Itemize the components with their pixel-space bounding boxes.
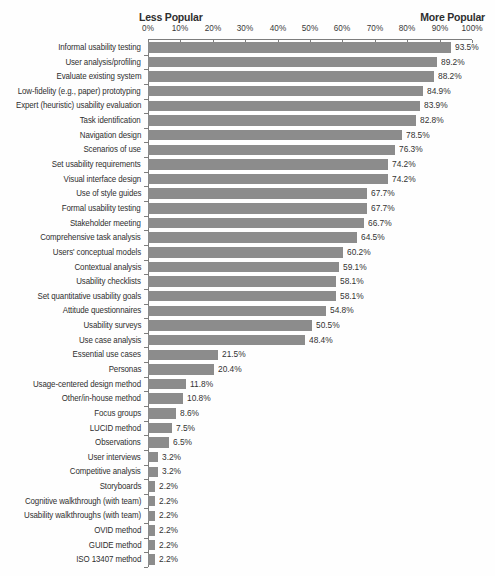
value-label: 6.5% [173, 438, 192, 447]
bar-row: OVID method2.2% [0, 523, 495, 538]
value-label: 93.5% [455, 43, 479, 52]
value-label: 84.9% [427, 87, 451, 96]
value-label: 48.4% [309, 336, 333, 345]
bar-row: Usability surveys50.5% [0, 318, 495, 333]
bar [148, 130, 402, 141]
bar [148, 496, 155, 507]
category-label: User interviews [0, 453, 148, 462]
x-tick-label: 40% [269, 23, 285, 33]
y-tick-mark [144, 567, 148, 568]
bar [148, 247, 343, 258]
bar [148, 71, 434, 82]
bar [148, 525, 155, 536]
bar-row: Usage-centered design method11.8% [0, 377, 495, 392]
value-label: 11.8% [190, 380, 213, 389]
more-popular-label: More Popular [420, 11, 485, 23]
bar [148, 203, 367, 214]
x-tick-label: 70% [367, 23, 383, 33]
bar-row: GUIDE method2.2% [0, 538, 495, 553]
value-label: 88.2% [438, 72, 462, 81]
value-label: 89.2% [441, 58, 465, 67]
bar-zone: 2.2% [148, 554, 495, 565]
bar-row: Observations6.5% [0, 435, 495, 450]
bar-row: LUCID method7.5% [0, 421, 495, 436]
category-label: Personas [0, 365, 148, 374]
bar [148, 218, 364, 229]
bar [148, 291, 336, 302]
bar-zone: 78.5% [148, 130, 495, 141]
bar-zone: 7.5% [148, 423, 495, 434]
value-label: 10.8% [187, 394, 211, 403]
bar-zone: 74.2% [148, 159, 495, 170]
bar-row: Low-fidelity (e.g., paper) prototyping84… [0, 84, 495, 99]
bar-row: User interviews3.2% [0, 450, 495, 465]
value-label: 2.2% [159, 511, 178, 520]
bar-row: Usability checklists58.1% [0, 274, 495, 289]
bar-row: Cognitive walkthrough (with team)2.2% [0, 494, 495, 509]
bar [148, 379, 186, 390]
x-tick-label: 80% [399, 23, 415, 33]
value-label: 60.2% [347, 248, 371, 257]
category-label: Visual interface design [0, 175, 148, 184]
bar [148, 159, 388, 170]
category-label: Competitive analysis [0, 467, 148, 476]
bar-row: ISO 13407 method2.2% [0, 552, 495, 567]
bar-zone: 2.2% [148, 525, 495, 536]
value-label: 2.2% [159, 541, 178, 550]
value-label: 74.2% [392, 175, 416, 184]
bar [148, 364, 214, 375]
bar [148, 350, 218, 361]
category-label: Cognitive walkthrough (with team) [0, 497, 148, 506]
bar [148, 174, 388, 185]
x-tick-label: 100% [462, 23, 483, 33]
category-label: Navigation design [0, 131, 148, 140]
category-label: OVID method [0, 526, 148, 535]
x-tick-label: 0% [142, 23, 154, 33]
bar-row: Personas20.4% [0, 362, 495, 377]
bar-zone: 89.2% [148, 57, 495, 68]
category-label: ISO 13407 method [0, 555, 148, 564]
bar-zone: 11.8% [148, 379, 495, 390]
bar-row: Storyboards2.2% [0, 479, 495, 494]
bar-row: Usability walkthroughs (with team)2.2% [0, 508, 495, 523]
value-label: 59.1% [343, 263, 367, 272]
bar [148, 232, 357, 243]
bar-zone: 10.8% [148, 393, 495, 404]
category-label: Scenarios of use [0, 145, 148, 154]
category-label: Essential use cases [0, 350, 148, 359]
bar-zone: 54.8% [148, 306, 495, 317]
category-label: Usability checklists [0, 277, 148, 286]
value-label: 50.5% [316, 321, 340, 330]
bar-row: Other/in-house method10.8% [0, 391, 495, 406]
value-label: 76.3% [399, 145, 423, 154]
value-label: 2.2% [159, 555, 178, 564]
x-tick-label: 90% [431, 23, 447, 33]
bar-zone: 3.2% [148, 452, 495, 463]
bar-zone: 60.2% [148, 247, 495, 258]
category-label: User analysis/profiling [0, 58, 148, 67]
value-label: 66.7% [368, 219, 392, 228]
bar-row: Essential use cases21.5% [0, 347, 495, 362]
value-label: 54.8% [330, 306, 354, 315]
bar-row: Visual interface design74.2% [0, 172, 495, 187]
category-label: Comprehensive task analysis [0, 233, 148, 242]
category-label: Set quantitative usability goals [0, 292, 148, 301]
bar [148, 188, 367, 199]
bar-row: Competitive analysis3.2% [0, 465, 495, 480]
bar-zone: 3.2% [148, 467, 495, 478]
value-label: 83.9% [424, 101, 448, 110]
usability-methods-bar-chart: Less Popular More Popular 0%10%20%30%40%… [0, 0, 495, 576]
value-label: 58.1% [340, 277, 364, 286]
x-tick-label: 60% [334, 23, 350, 33]
bar-row: Set quantitative usability goals58.1% [0, 289, 495, 304]
category-label: GUIDE method [0, 541, 148, 550]
bar [148, 145, 395, 156]
bar [148, 306, 326, 317]
value-label: 2.2% [159, 482, 178, 491]
bar-zone: 2.2% [148, 481, 495, 492]
bar [148, 262, 339, 273]
category-label: Storyboards [0, 482, 148, 491]
bar-zone: 8.6% [148, 408, 495, 419]
category-label: Usability surveys [0, 321, 148, 330]
bar-zone: 50.5% [148, 320, 495, 331]
